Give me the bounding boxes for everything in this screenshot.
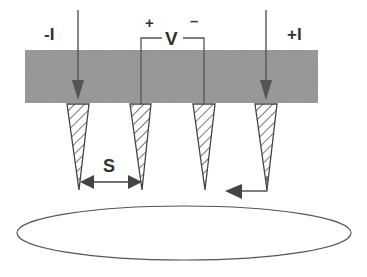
label-voltage-plus: +: [145, 14, 154, 31]
label-spacing: S: [103, 156, 115, 176]
probe-3: [193, 104, 215, 190]
label-voltage-minus: –: [190, 12, 198, 29]
four-point-probe-diagram: -I +I + – V S: [0, 0, 367, 277]
probe-4: [255, 104, 277, 190]
probe-2: [130, 104, 151, 190]
label-current-in: -I: [44, 25, 54, 44]
label-current-out: +I: [287, 25, 302, 44]
probe-holder-texture: [25, 50, 318, 103]
sample-ellipse: [17, 206, 351, 260]
probe-1: [67, 104, 89, 190]
return-arrow-icon: [225, 176, 267, 199]
spacing-arrow-icon: [80, 175, 142, 189]
label-voltage: V: [165, 28, 178, 49]
